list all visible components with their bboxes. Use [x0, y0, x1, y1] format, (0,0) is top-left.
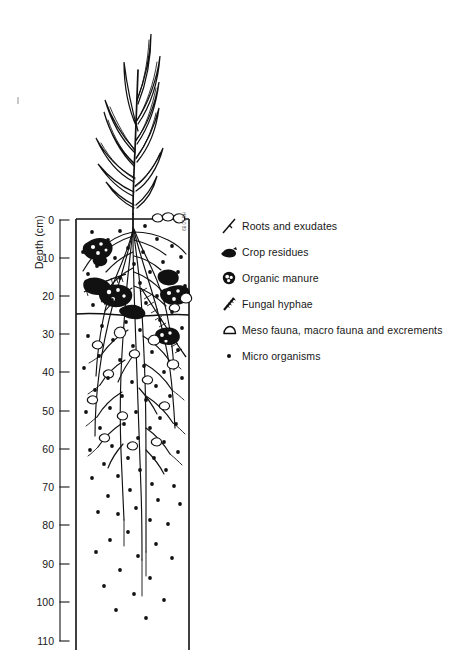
fauna-outline-icon [218, 320, 242, 340]
soil-profile-figure: Depth (cm) 0 10 20 30 40 50 60 70 80 90 … [0, 0, 449, 664]
legend-label-fauna: Meso fauna, macro fauna and excrements [242, 324, 443, 336]
manure-round-icon [218, 268, 242, 288]
tick-label-90: 90 [28, 559, 54, 569]
tick-label-0: 0 [28, 215, 54, 225]
legend-item-organic-manure: Organic manure [218, 265, 446, 291]
axis-title-depth: Depth (cm) [33, 197, 45, 287]
legend-item-fauna: Meso fauna, macro fauna and excrements [218, 317, 446, 343]
legend-label-micro-organisms: Micro organisms [242, 350, 321, 362]
root-line-icon [218, 216, 242, 236]
tick-label-80: 80 [28, 520, 54, 530]
legend-item-fungal-hyphae: Fungal hyphae [218, 291, 446, 317]
figure-credit: HS 10 89 [181, 212, 186, 231]
tick-label-70: 70 [28, 482, 54, 492]
microbe-dot-icon [218, 346, 242, 366]
tick-label-100: 100 [22, 597, 54, 607]
legend-item-micro-organisms: Micro organisms [218, 343, 446, 369]
scan-artifact [17, 97, 19, 104]
tick-label-110: 110 [22, 636, 54, 646]
legend-label-fungal-hyphae: Fungal hyphae [242, 298, 313, 310]
legend-label-organic-manure: Organic manure [242, 272, 319, 284]
legend-label-roots: Roots and exudates [242, 220, 337, 232]
tick-label-60: 60 [28, 444, 54, 454]
tick-label-20: 20 [28, 291, 54, 301]
legend-item-roots: Roots and exudates [218, 213, 446, 239]
tick-label-40: 40 [28, 367, 54, 377]
legend-item-crop-residues: Crop residues [218, 239, 446, 265]
tick-label-30: 30 [28, 329, 54, 339]
tick-label-10: 10 [28, 253, 54, 263]
legend: Roots and exudates Crop residues Org [218, 213, 446, 369]
plant-shoot [96, 34, 163, 214]
tick-label-50: 50 [28, 406, 54, 416]
residue-blob-icon [218, 242, 242, 262]
hyphae-hatch-icon [218, 294, 242, 314]
legend-label-crop-residues: Crop residues [242, 246, 309, 258]
depth-axis [60, 220, 69, 641]
